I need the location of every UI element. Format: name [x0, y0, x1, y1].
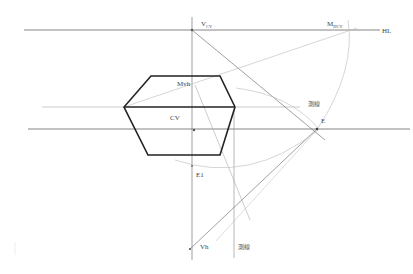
light-line-e	[216, 131, 316, 241]
label-cv: CV	[170, 114, 180, 122]
mvh-diagonal-line	[195, 85, 250, 220]
rotation-arc-bottom	[175, 130, 318, 168]
vcv-to-e-line	[192, 30, 325, 140]
point-e1	[191, 165, 193, 167]
point-vh	[189, 248, 191, 250]
perspective-diagram: VCV MHCV HL Mvh CV E E1 Vh 測線 測線	[0, 0, 413, 274]
vh-to-e-line	[190, 128, 318, 249]
label-mvh: Mvh	[177, 80, 191, 88]
label-e1: E1	[196, 171, 204, 179]
label-e: E	[321, 117, 325, 125]
point-cv	[193, 129, 195, 131]
point-e	[316, 128, 319, 131]
m-to-left-vertex-line	[124, 28, 357, 107]
light-curve-to-e	[236, 88, 318, 128]
label-measuring-line-1: 測線	[308, 100, 320, 108]
label-vh: Vh	[200, 243, 209, 251]
label-hl: HL	[382, 27, 391, 35]
label-vcv: VCV	[201, 20, 213, 29]
label-mhcv: MHCV	[327, 20, 343, 29]
label-measuring-line-2: 測線	[238, 243, 250, 251]
point-vcv	[191, 29, 193, 31]
